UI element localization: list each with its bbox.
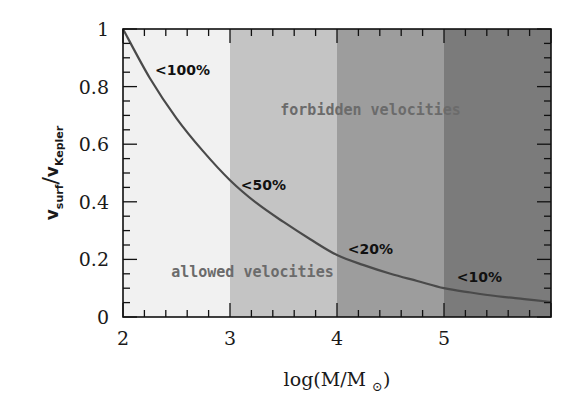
y-tick-label: 0.6 <box>79 133 109 155</box>
y-axis-title: vsurf/vKepler <box>38 125 66 220</box>
percent-label: <10% <box>457 269 502 285</box>
x-tick-labels: 2345 <box>117 327 450 349</box>
x-tick-label: 5 <box>438 327 450 349</box>
y-tick-labels: 00.20.40.60.81 <box>79 18 109 328</box>
percent-label: <50% <box>241 177 286 193</box>
x-tick-label: 4 <box>331 327 343 349</box>
x-axis-title: log(M/M ⊙) <box>284 368 391 394</box>
percent-label: <20% <box>348 241 393 257</box>
chart: <100%<50%<20%<10%forbidden velocitiesall… <box>0 0 576 413</box>
y-tick-label: 0.4 <box>79 191 109 213</box>
y-tick-label: 0 <box>97 306 109 328</box>
percent-label: <100% <box>155 62 210 78</box>
y-tick-label: 0.8 <box>79 76 109 98</box>
region-label: forbidden velocities <box>280 101 461 119</box>
region-label: allowed velocities <box>171 263 334 281</box>
x-tick-label: 3 <box>224 327 236 349</box>
y-tick-label: 1 <box>97 18 109 40</box>
x-tick-label: 2 <box>117 327 129 349</box>
y-tick-label: 0.2 <box>79 248 109 270</box>
